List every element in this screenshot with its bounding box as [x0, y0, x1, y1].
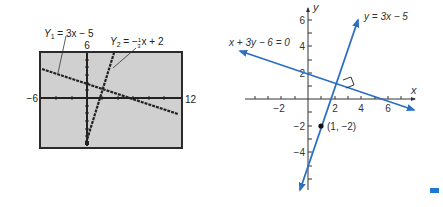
calc-cursor — [85, 141, 89, 145]
line1-label: y = 3x − 5 — [363, 11, 408, 22]
svg-text:6: 6 — [299, 15, 305, 26]
x-tick-labels: −2 2 4 6 — [273, 103, 391, 114]
calc-ymax-label: 6 — [84, 40, 90, 51]
line-x-plus-3y — [240, 51, 414, 110]
y-axis-label: y — [312, 1, 320, 13]
point-label: (1, −2) — [327, 121, 356, 132]
svg-text:2: 2 — [332, 103, 338, 114]
end-of-figure-marker — [430, 188, 439, 193]
x-axis-label: x — [410, 84, 417, 96]
line2-label: x + 3y − 6 = 0 — [228, 37, 290, 48]
calculator-screen — [40, 52, 182, 148]
coordinate-graph-figure: −2 2 4 6 6 4 2 −2 −4 y x (1, −2) y = 3x … — [220, 0, 443, 207]
svg-text:6: 6 — [385, 103, 391, 114]
y-tick-labels: 6 4 2 −2 −4 — [294, 15, 306, 158]
calc-xmin-label: −6 — [27, 93, 39, 104]
svg-text:−2: −2 — [294, 121, 306, 132]
svg-text:4: 4 — [299, 41, 305, 52]
y2-equation-label: Y2 = −13x + 2 — [110, 36, 164, 49]
svg-text:−4: −4 — [294, 147, 306, 158]
calculator-graph: 6 −6 12 Y1 = 3x − 5 Y2 = −13x + 2 — [0, 0, 220, 207]
svg-text:−2: −2 — [273, 103, 285, 114]
point-1-neg2 — [318, 123, 323, 128]
svg-text:4: 4 — [358, 103, 364, 114]
calc-xmax-label: 12 — [185, 94, 197, 105]
coordinate-graph: −2 2 4 6 6 4 2 −2 −4 y x (1, −2) y = 3x … — [220, 0, 443, 207]
y1-equation-label: Y1 = 3x − 5 — [44, 28, 94, 40]
calculator-figure: 6 −6 12 Y1 = 3x − 5 Y2 = −13x + 2 — [0, 0, 220, 207]
